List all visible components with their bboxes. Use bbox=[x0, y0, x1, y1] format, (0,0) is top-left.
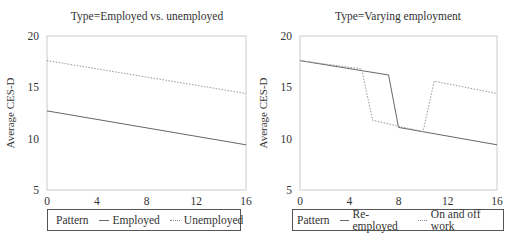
y-tick-label: 15 bbox=[281, 81, 293, 93]
x-tick-label: 0 bbox=[297, 195, 303, 207]
x-tick-label: 8 bbox=[396, 195, 402, 207]
series-line-re-employed bbox=[300, 61, 497, 145]
x-tick-label: 0 bbox=[44, 195, 50, 207]
y-tick-label: 5 bbox=[33, 184, 39, 196]
solid-line-swatch-icon bbox=[99, 220, 109, 221]
legend-right: Pattern Re-employed On and off work bbox=[292, 209, 504, 231]
y-tick-label: 5 bbox=[286, 184, 292, 196]
legend-item-on-and-off-work: On and off work bbox=[418, 208, 499, 232]
chart-canvas: Type=Employed vs. unemployed510152004812… bbox=[0, 0, 520, 243]
chart-title: Type=Employed vs. unemployed bbox=[71, 10, 224, 23]
legend-item-employed: Employed bbox=[99, 214, 160, 226]
y-axis-label: Average CES-D bbox=[4, 77, 16, 148]
y-tick-label: 20 bbox=[281, 30, 293, 42]
dotted-line-swatch-icon bbox=[170, 220, 180, 221]
series-line-unemployed bbox=[47, 61, 246, 94]
x-tick-label: 4 bbox=[346, 195, 352, 207]
y-tick-label: 20 bbox=[28, 30, 40, 42]
series-line-on-and-off-work bbox=[300, 61, 497, 132]
chart-title: Type=Varying employment bbox=[335, 10, 462, 23]
plot-frame bbox=[47, 36, 246, 190]
legend-title: Pattern bbox=[297, 214, 330, 226]
x-tick-label: 16 bbox=[491, 195, 503, 207]
x-tick-label: 12 bbox=[442, 195, 454, 207]
chart-panel-2: Type=Varying employment51015200481216Tim… bbox=[257, 10, 503, 225]
y-tick-label: 15 bbox=[28, 81, 40, 93]
legend-item-re-employed: Re-employed bbox=[340, 208, 408, 232]
solid-line-swatch-icon bbox=[340, 220, 349, 221]
plot-frame bbox=[300, 36, 497, 190]
legend-left: Pattern Employed Unemployed bbox=[47, 209, 241, 231]
x-tick-label: 12 bbox=[191, 195, 203, 207]
y-tick-label: 10 bbox=[28, 133, 40, 145]
x-tick-label: 16 bbox=[240, 195, 252, 207]
legend-item-unemployed: Unemployed bbox=[170, 214, 243, 226]
x-tick-label: 8 bbox=[144, 195, 150, 207]
chart-panel-1: Type=Employed vs. unemployed510152004812… bbox=[4, 10, 252, 225]
y-tick-label: 10 bbox=[281, 133, 293, 145]
y-axis-label: Average CES-D bbox=[257, 77, 269, 148]
series-line-employed bbox=[47, 111, 246, 145]
dotted-line-swatch-icon bbox=[418, 220, 427, 221]
x-tick-label: 4 bbox=[94, 195, 100, 207]
legend-title: Pattern bbox=[56, 214, 89, 226]
